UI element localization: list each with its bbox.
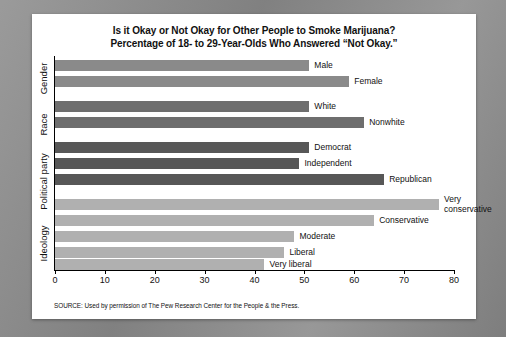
group-label-column: Gender Race Political party Ideology: [32, 56, 52, 270]
x-tick-label-60: 60: [349, 275, 359, 285]
bar-label-white: White: [314, 102, 336, 112]
bar-row-moderate: Moderate: [55, 231, 335, 242]
x-tick-10: [105, 270, 106, 274]
bar-white: [55, 101, 309, 112]
bar-label-democrat: Democrat: [314, 143, 351, 153]
bar-nonwhite: [55, 117, 364, 128]
x-tick-20: [155, 270, 156, 274]
x-tick-40: [255, 270, 256, 274]
bar-female: [55, 76, 349, 87]
x-tick-30: [205, 270, 206, 274]
bar-independent: [55, 158, 299, 169]
bar-label-female: Female: [354, 77, 382, 87]
page-title: Is it Okay or Not Okay for Other People …: [32, 25, 476, 38]
x-tick-label-70: 70: [399, 275, 409, 285]
x-tick-70: [404, 270, 405, 274]
bar-very-conservative: [55, 199, 439, 210]
x-tick-0: [55, 270, 56, 274]
bar-democrat: [55, 142, 309, 153]
bar-row-very-liberal: Very liberal: [55, 259, 312, 270]
group-label-political-party: Political party: [38, 147, 49, 217]
bar-very-liberal: [55, 259, 264, 270]
bar-label-conservative: Conservative: [379, 216, 429, 226]
bar-label-nonwhite: Nonwhite: [369, 118, 404, 128]
bar-label-very-liberal: Very liberal: [269, 260, 311, 270]
bar-row-nonwhite: Nonwhite: [55, 117, 405, 128]
group-label-ideology: Ideology: [38, 209, 49, 279]
x-tick-50: [304, 270, 305, 274]
x-tick-60: [354, 270, 355, 274]
chart-subtitle: Percentage of 18- to 29-Year-Olds Who An…: [32, 38, 476, 51]
x-tick-label-30: 30: [200, 275, 210, 285]
chart-title-block: Is it Okay or Not Okay for Other People …: [32, 14, 476, 50]
bar-row-very-conservative: Very conservative: [55, 199, 490, 210]
bar-label-independent: Independent: [304, 159, 351, 169]
bar-row-liberal: Liberal: [55, 247, 315, 258]
x-tick-80: [454, 270, 455, 274]
bar-label-very-conservative: Very conservative: [444, 195, 490, 214]
bar-label-liberal: Liberal: [289, 248, 315, 258]
x-tick-label-0: 0: [52, 275, 57, 285]
x-tick-label-80: 80: [449, 275, 459, 285]
bar-republican: [55, 174, 384, 185]
x-tick-label-40: 40: [249, 275, 259, 285]
bar-row-female: Female: [55, 76, 383, 87]
bar-row-male: Male: [55, 60, 333, 71]
bar-series: Male Female White Nonwhite Democrat: [55, 56, 476, 270]
chart-card: Is it Okay or Not Okay for Other People …: [32, 14, 476, 319]
bar-row-conservative: Conservative: [55, 215, 429, 226]
bar-row-independent: Independent: [55, 158, 352, 169]
bar-male: [55, 60, 309, 71]
bar-moderate: [55, 231, 294, 242]
bar-label-republican: Republican: [389, 175, 432, 185]
bar-conservative: [55, 215, 374, 226]
bar-row-democrat: Democrat: [55, 142, 351, 153]
bar-label-male: Male: [314, 61, 332, 71]
bar-liberal: [55, 247, 284, 258]
bar-row-republican: Republican: [55, 174, 432, 185]
bar-row-white: White: [55, 101, 336, 112]
x-tick-label-50: 50: [299, 275, 309, 285]
x-tick-label-10: 10: [100, 275, 110, 285]
plot-area: Gender Race Political party Ideology Mal…: [32, 56, 476, 286]
source-note: SOURCE: Used by permission of The Pew Re…: [54, 302, 299, 309]
x-tick-label-20: 20: [150, 275, 160, 285]
bar-label-moderate: Moderate: [299, 232, 335, 242]
